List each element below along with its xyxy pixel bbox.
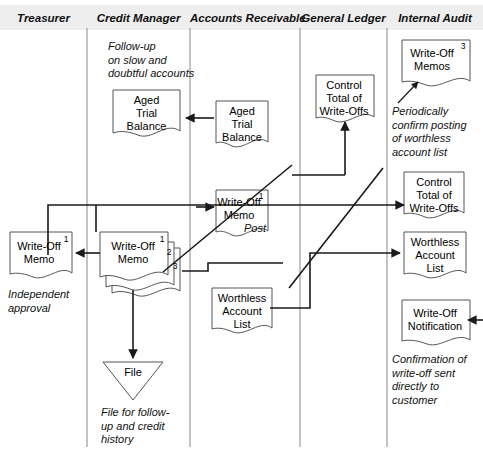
copy-number-write-off-memo-treasurer: 1 [61, 235, 71, 244]
connector-wal-ar-to-ia [270, 253, 400, 308]
column-header-treasurer: Treasurer [0, 11, 87, 25]
note-periodically-confirm: Periodically confirm posting of worthles… [392, 105, 483, 159]
connector-diagonal-to-gl [163, 165, 292, 272]
copy-number-write-off-memo-ar: 1 [256, 192, 266, 201]
label-file-triangle: File [103, 366, 163, 379]
doc-worthless-account-list-ar [212, 288, 272, 333]
note-file-for-follow-up: File for follow- up and credit history [101, 406, 193, 447]
doc-aged-trial-balance-ar [216, 101, 268, 147]
copy-number-3-stack: 3 [170, 262, 180, 271]
doc-worthless-account-list-ia [404, 232, 466, 278]
pointer-note-to-write-off-memos [398, 82, 418, 103]
document-flowchart: Treasurer Credit Manager Accounts Receiv… [0, 0, 483, 453]
doc-control-total-gl [316, 75, 374, 122]
column-header-accounts-receivable: Accounts Receivable [190, 11, 300, 25]
note-post: Post [216, 222, 266, 236]
copy-number-1-stack: 1 [157, 235, 167, 244]
doc-write-off-notification-ia [402, 300, 470, 345]
copy-number-write-off-memos-ia: 3 [458, 42, 468, 51]
note-independent-approval: Independent approval [8, 288, 93, 315]
column-header-general-ledger: General Ledger [300, 11, 387, 25]
document-shapes [10, 40, 470, 400]
column-header-credit-manager: Credit Manager [87, 11, 190, 25]
note-confirmation: Confirmation of write-off sent directly … [392, 353, 483, 407]
doc-control-total-ia [404, 172, 464, 218]
note-follow-up: Follow-up on slow and doubtful accounts [108, 40, 208, 81]
column-header-internal-audit: Internal Audit [387, 11, 483, 25]
copy-number-2-stack: 2 [164, 248, 174, 257]
doc-aged-trial-balance-cm [113, 90, 180, 136]
connector-copy3-step-right [182, 263, 283, 271]
connector-diagonal-to-ia [289, 168, 383, 288]
